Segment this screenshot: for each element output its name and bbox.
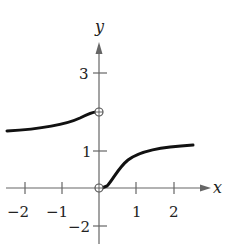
function-graph: −2 −1 1 2 3 1 −2 x y — [0, 0, 232, 248]
y-tick-label: 3 — [79, 65, 89, 83]
y-tick-label: −2 — [68, 218, 90, 236]
x-axis-title: x — [213, 178, 222, 197]
left-branch-curve — [7, 112, 96, 131]
x-tick-label: −1 — [46, 203, 68, 221]
right-branch-curve — [102, 145, 193, 188]
open-circle-marker — [95, 184, 103, 192]
x-axis-arrow-icon — [200, 185, 211, 192]
y-ticks — [93, 73, 107, 226]
y-tick-label: 1 — [82, 143, 92, 161]
y-axis-title: y — [94, 17, 105, 36]
x-tick-label: 2 — [169, 203, 179, 221]
x-tick-label: −2 — [7, 203, 29, 221]
y-axis-arrow-icon — [96, 42, 103, 54]
open-circle-marker — [95, 108, 103, 116]
axes — [6, 42, 211, 244]
x-tick-label: 1 — [132, 203, 142, 221]
